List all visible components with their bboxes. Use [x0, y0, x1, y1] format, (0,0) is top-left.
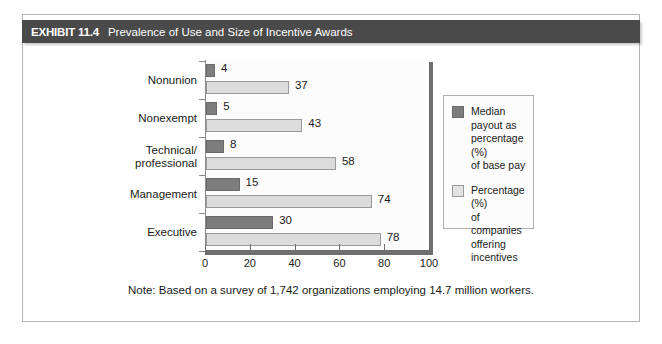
legend-item: Median payout as percentage (%) of base …	[452, 105, 533, 173]
exhibit-title: Prevalence of Use and Size of Incentive …	[108, 26, 353, 38]
bar-group: 543	[206, 99, 432, 137]
bar-value-label: 58	[342, 155, 355, 167]
x-tick-label: 20	[244, 257, 256, 269]
bar-group: 858	[206, 137, 432, 175]
legend-swatch-dark	[452, 106, 464, 118]
y-tick-mark	[199, 213, 205, 214]
category-label: Executive	[147, 226, 197, 239]
x-tick-mark	[205, 244, 206, 251]
bar-value-label: 5	[223, 100, 229, 112]
category-label: Management	[130, 188, 197, 201]
x-tick-label: 40	[288, 257, 300, 269]
x-tick-label: 80	[378, 257, 390, 269]
bar-pct-companies	[206, 81, 289, 94]
bar-group: 1574	[206, 175, 432, 213]
chart-legend: Median payout as percentage (%) of base …	[443, 95, 534, 229]
bar-group: 3078	[206, 213, 432, 251]
category-label: Nonexempt	[138, 112, 197, 125]
legend-label: Median payout as percentage (%) of base …	[471, 105, 533, 173]
category-label: Nonunion	[148, 74, 197, 87]
bar-value-label: 43	[308, 117, 321, 129]
bar-value-label: 15	[246, 176, 259, 188]
bar-median-payout	[206, 178, 240, 191]
bar-value-label: 74	[378, 193, 391, 205]
bar-median-payout	[206, 140, 224, 153]
bar-value-label: 4	[221, 62, 227, 74]
x-tick-mark	[429, 244, 430, 251]
category-label: Technical/ professional	[135, 144, 197, 170]
bar-pct-companies	[206, 195, 372, 208]
x-tick-mark	[250, 244, 251, 251]
bar-value-label: 37	[295, 79, 308, 91]
bar-pct-companies	[206, 157, 336, 170]
y-tick-mark	[199, 251, 205, 252]
y-tick-mark	[199, 175, 205, 176]
bar-value-label: 8	[230, 138, 236, 150]
x-tick-label: 60	[333, 257, 345, 269]
y-tick-mark	[199, 137, 205, 138]
x-tick-mark	[295, 244, 296, 251]
x-tick-mark	[339, 244, 340, 251]
legend-item: Percentage (%) of companies offering inc…	[452, 184, 533, 265]
y-tick-mark	[199, 99, 205, 100]
chart-area: NonunionNonexemptTechnical/ professional…	[22, 50, 640, 280]
bar-pct-companies	[206, 119, 302, 132]
bar-value-label: 30	[279, 214, 292, 226]
exhibit-number-label: EXHIBIT 11.4	[31, 26, 99, 38]
x-tick-label: 100	[420, 257, 438, 269]
bar-median-payout	[206, 102, 217, 115]
bar-group: 437	[206, 61, 432, 99]
bar-median-payout	[206, 64, 215, 77]
exhibit-header: EXHIBIT 11.4 Prevalence of Use and Size …	[22, 20, 640, 43]
bar-median-payout	[206, 216, 273, 229]
category-axis-labels: NonunionNonexemptTechnical/ professional…	[22, 60, 197, 250]
bar-value-label: 78	[387, 231, 400, 243]
bar-pct-companies	[206, 233, 381, 246]
y-tick-mark	[199, 61, 205, 62]
legend-swatch-light	[452, 185, 464, 197]
x-tick-label: 0	[202, 257, 208, 269]
chart-note: Note: Based on a survey of 1,742 organiz…	[22, 284, 640, 296]
x-tick-mark	[384, 244, 385, 251]
legend-label: Percentage (%) of companies offering inc…	[471, 184, 533, 265]
plot-area: 43754385815743078 020406080100	[205, 60, 432, 256]
